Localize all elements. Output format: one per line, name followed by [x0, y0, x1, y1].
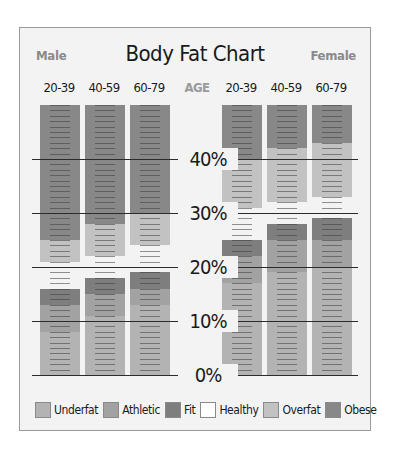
- bar-female-60-79: [312, 105, 352, 375]
- y-tick-10: 10%: [178, 310, 238, 332]
- age-header-male-3: 60-79: [128, 80, 170, 95]
- legend-swatch-underfat: [35, 402, 51, 418]
- legend-label-athletic: Athletic: [122, 403, 160, 417]
- tick-marks: [140, 105, 160, 375]
- age-header-female-3: 60-79: [310, 80, 352, 95]
- bar-male-40-59: [85, 105, 125, 375]
- legend-label-underfat: Underfat: [54, 403, 98, 417]
- tick-marks: [50, 105, 70, 375]
- legend-label-overfat: Overfat: [282, 403, 320, 417]
- legend-swatch-healthy: [200, 402, 216, 418]
- legend-item-underfat: Underfat: [35, 402, 98, 418]
- legend-item-fit: Fit: [165, 402, 195, 418]
- y-tick-0: 0%: [178, 364, 238, 386]
- y-tick-40: 40%: [178, 148, 238, 170]
- age-header-female-1: 20-39: [220, 80, 262, 95]
- legend-item-healthy: Healthy: [200, 402, 258, 418]
- legend-item-obese: Obese: [325, 402, 376, 418]
- legend-item-overfat: Overfat: [263, 402, 320, 418]
- y-tick-20: 20%: [178, 256, 238, 278]
- legend-swatch-obese: [325, 402, 341, 418]
- legend-item-athletic: Athletic: [103, 402, 160, 418]
- bar-female-40-59: [267, 105, 307, 375]
- legend-swatch-overfat: [263, 402, 279, 418]
- legend-swatch-athletic: [103, 402, 119, 418]
- y-tick-30: 30%: [178, 202, 238, 224]
- bar-male-20-39: [40, 105, 80, 375]
- tick-marks: [95, 105, 115, 375]
- bar-male-60-79: [130, 105, 170, 375]
- age-header-male-2: 40-59: [83, 80, 125, 95]
- legend: Underfat Athletic Fit Healthy Overfat Ob…: [35, 402, 382, 418]
- chart-frame: Body Fat Chart Male Female 20-39 40-59 6…: [19, 27, 371, 431]
- age-header-female-2: 40-59: [265, 80, 307, 95]
- female-label: Female: [310, 48, 356, 63]
- tick-marks: [277, 105, 297, 375]
- bar-female-20-39: [222, 105, 262, 375]
- age-header-male-1: 20-39: [38, 80, 80, 95]
- legend-swatch-fit: [165, 402, 181, 418]
- tick-marks: [322, 105, 342, 375]
- legend-label-fit: Fit: [184, 403, 195, 417]
- legend-label-obese: Obese: [344, 403, 376, 417]
- legend-label-healthy: Healthy: [219, 403, 258, 417]
- age-axis-label: AGE: [176, 80, 218, 95]
- tick-marks: [232, 105, 252, 375]
- male-label: Male: [36, 48, 66, 63]
